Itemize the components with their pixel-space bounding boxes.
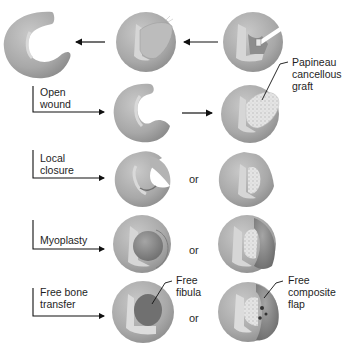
- bone-local-closure-graft: [219, 152, 274, 207]
- label-free-bone-transfer: Free bone transfer: [40, 286, 88, 310]
- bone-myoplasty: [113, 215, 171, 273]
- label-myoplasty: Myoplasty: [40, 234, 87, 246]
- bone-open-wound: [114, 84, 170, 142]
- annotation-free-composite-flap: Free composite flap: [288, 274, 336, 310]
- or-text-row4: or: [189, 312, 199, 324]
- label-open-wound: Open wound: [40, 86, 71, 110]
- annotation-papineau-graft: Papineau cancellous graft: [292, 56, 342, 92]
- bone-debrided-c-shape: [4, 12, 71, 78]
- bone-papineau-graft: [221, 85, 279, 143]
- annotation-free-fibula: Free fibula: [176, 274, 201, 298]
- diagram-canvas: Open wound Papineau cancellous graft Loc…: [0, 0, 348, 349]
- bone-with-drain: [223, 12, 283, 72]
- or-text-row3: or: [189, 244, 199, 256]
- bone-with-sequestrum: [116, 12, 176, 72]
- label-local-closure: Local closure: [40, 152, 74, 176]
- or-text-row2: or: [189, 173, 199, 185]
- bone-free-fibula: [112, 281, 174, 343]
- bone-myoplasty-graft: [218, 215, 276, 273]
- bone-local-closure: [115, 151, 171, 207]
